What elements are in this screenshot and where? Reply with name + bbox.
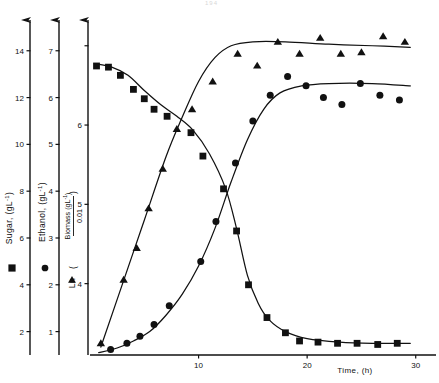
data-point-sugar-17 bbox=[354, 340, 361, 347]
y-tick-biomass-6: 6 bbox=[78, 121, 83, 130]
series-sugar bbox=[93, 63, 401, 348]
data-point-ethanol-4 bbox=[166, 302, 173, 309]
data-point-ethanol-7 bbox=[232, 160, 239, 167]
data-point-biomass-4 bbox=[159, 165, 167, 172]
legend-marker-sugar bbox=[8, 264, 15, 271]
y-tick-sugar-10: 10 bbox=[15, 140, 24, 149]
data-point-sugar-16 bbox=[334, 340, 341, 347]
x-axis-label: Time, (h) bbox=[337, 366, 372, 375]
svg-text:Biomass (gL-1): Biomass (gL-1) bbox=[62, 193, 72, 240]
data-point-biomass-11 bbox=[295, 50, 303, 57]
data-point-ethanol-10 bbox=[284, 73, 291, 80]
y-tick-biomass-4: 4 bbox=[78, 280, 83, 289]
data-point-biomass-14 bbox=[357, 48, 365, 55]
data-point-biomass-5 bbox=[173, 125, 181, 132]
data-point-biomass-3 bbox=[144, 204, 152, 211]
x-tick-30: 30 bbox=[411, 361, 420, 370]
y-tick-sugar-8: 8 bbox=[20, 187, 25, 196]
data-point-sugar-1 bbox=[105, 64, 112, 71]
data-point-biomass-12 bbox=[316, 34, 324, 41]
data-point-sugar-18 bbox=[374, 341, 381, 348]
svg-text:): ) bbox=[68, 191, 78, 194]
svg-text:Ethanol, (gL-1): Ethanol, (gL-1) bbox=[37, 182, 47, 242]
legend-marker-ethanol bbox=[42, 265, 49, 272]
y-tick-ethanol-4: 4 bbox=[49, 187, 54, 196]
data-point-biomass-9 bbox=[253, 62, 261, 69]
data-point-sugar-10 bbox=[233, 228, 240, 235]
fermentation-kinetics-figure: 194 24681012141234567456102030Time, (h)S… bbox=[0, 0, 439, 383]
data-point-ethanol-16 bbox=[396, 96, 403, 103]
y-axis-label-ethanol: Ethanol, (gL-1) bbox=[37, 182, 47, 242]
data-point-sugar-15 bbox=[315, 339, 322, 346]
data-point-ethanol-14 bbox=[357, 80, 364, 87]
y-tick-ethanol-5: 5 bbox=[49, 140, 54, 149]
data-point-sugar-9 bbox=[220, 185, 227, 192]
svg-text:(: ( bbox=[68, 266, 78, 269]
y-tick-ethanol-3: 3 bbox=[49, 234, 54, 243]
y-tick-sugar-4: 4 bbox=[20, 281, 25, 290]
data-point-sugar-8 bbox=[200, 153, 207, 160]
data-point-ethanol-5 bbox=[197, 258, 204, 265]
svg-text:Sugar, (gL-1): Sugar, (gL-1) bbox=[4, 192, 14, 245]
series-ethanol bbox=[107, 73, 403, 353]
y-tick-sugar-12: 12 bbox=[15, 94, 24, 103]
y-tick-ethanol-6: 6 bbox=[49, 94, 54, 103]
x-tick-10: 10 bbox=[194, 361, 203, 370]
data-point-biomass-2 bbox=[132, 244, 140, 251]
y-axis-label-sugar: Sugar, (gL-1) bbox=[4, 192, 14, 245]
curve-sugar-curve bbox=[94, 64, 410, 344]
data-point-biomass-13 bbox=[337, 50, 345, 57]
data-point-biomass-15 bbox=[379, 32, 387, 39]
data-point-ethanol-15 bbox=[376, 92, 383, 99]
y-axis-biomass: 456 bbox=[78, 20, 89, 355]
data-point-ethanol-13 bbox=[338, 101, 345, 108]
y-tick-sugar-14: 14 bbox=[15, 47, 24, 56]
y-tick-ethanol-2: 2 bbox=[49, 281, 54, 290]
data-point-sugar-14 bbox=[296, 338, 303, 345]
y-tick-ethanol-7: 7 bbox=[49, 47, 54, 56]
series-biomass bbox=[97, 32, 409, 346]
y-tick-ethanol-1: 1 bbox=[49, 328, 54, 337]
curve-biomass-curve bbox=[101, 41, 410, 347]
y-tick-sugar-2: 2 bbox=[20, 328, 25, 337]
y-axis-sugar: 2468101214 bbox=[15, 20, 30, 355]
data-point-biomass-1 bbox=[119, 276, 127, 283]
y-axis-ethanol: 1234567 bbox=[49, 20, 60, 355]
chart-canvas: 24681012141234567456102030Time, (h)Sugar… bbox=[0, 0, 439, 383]
data-point-sugar-13 bbox=[282, 329, 289, 336]
data-point-ethanol-12 bbox=[320, 94, 327, 101]
data-point-biomass-7 bbox=[208, 78, 216, 85]
data-point-biomass-16 bbox=[401, 38, 409, 45]
data-point-ethanol-0 bbox=[107, 346, 114, 353]
data-point-ethanol-6 bbox=[212, 218, 219, 225]
x-tick-20: 20 bbox=[303, 361, 312, 370]
data-point-ethanol-11 bbox=[303, 82, 310, 89]
data-point-sugar-3 bbox=[130, 86, 137, 93]
data-point-sugar-4 bbox=[141, 95, 148, 102]
data-point-ethanol-3 bbox=[151, 321, 158, 328]
data-point-sugar-12 bbox=[264, 314, 271, 321]
data-point-sugar-5 bbox=[151, 106, 158, 113]
data-point-biomass-8 bbox=[233, 50, 241, 57]
data-point-sugar-2 bbox=[117, 72, 124, 79]
data-point-ethanol-2 bbox=[136, 333, 143, 340]
svg-text:0.01: 0.01 bbox=[75, 209, 84, 223]
y-tick-sugar-6: 6 bbox=[20, 234, 25, 243]
x-axis: 102030Time, (h) bbox=[90, 355, 436, 375]
y-tick-biomass-5: 5 bbox=[78, 200, 83, 209]
data-point-ethanol-8 bbox=[249, 117, 256, 124]
data-point-biomass-6 bbox=[188, 105, 196, 112]
data-point-ethanol-9 bbox=[267, 92, 274, 99]
data-point-sugar-6 bbox=[164, 113, 171, 120]
data-point-sugar-7 bbox=[188, 129, 195, 136]
data-point-sugar-19 bbox=[394, 340, 401, 347]
data-point-ethanol-1 bbox=[123, 340, 130, 347]
data-point-sugar-11 bbox=[245, 281, 252, 288]
data-point-sugar-0 bbox=[93, 63, 100, 70]
